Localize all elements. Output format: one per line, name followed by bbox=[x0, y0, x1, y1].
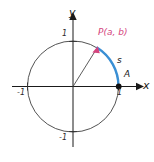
arc-length-label: s bbox=[117, 56, 122, 65]
diagram-canvas bbox=[0, 0, 154, 162]
x-axis-label: x bbox=[143, 80, 150, 91]
y-tick-label-neg1: -1 bbox=[59, 134, 67, 142]
point-a-label: A bbox=[124, 70, 130, 79]
x-tick-label-neg1: -1 bbox=[17, 89, 25, 97]
point-p-label: P(a, b) bbox=[98, 28, 127, 37]
unit-circle-figure: x y 1 -1 -1 1 P(a, b) s A bbox=[0, 0, 154, 162]
x-tick-label-1: 1 bbox=[117, 89, 122, 97]
y-tick-label-1: 1 bbox=[62, 30, 67, 38]
arc-s-path bbox=[97, 48, 118, 87]
y-axis-label: y bbox=[69, 7, 76, 18]
terminal-side-segment bbox=[73, 49, 97, 87]
